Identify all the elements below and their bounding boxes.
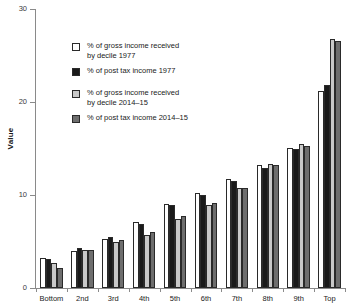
x-axis-tick: [160, 288, 161, 292]
bar: [330, 39, 336, 288]
bar: [212, 203, 218, 288]
bar: [200, 195, 206, 288]
x-axis-tick: [252, 288, 253, 292]
bar: [273, 165, 279, 288]
bar: [119, 240, 125, 288]
x-axis-tick: [98, 288, 99, 292]
bar: [231, 181, 237, 288]
bar: [257, 165, 263, 288]
y-axis-title: Value: [6, 117, 15, 161]
bar: [150, 232, 156, 288]
dark-gray-square-icon: [72, 115, 80, 123]
x-axis-tick: [314, 288, 315, 292]
x-axis-tick: [191, 288, 192, 292]
bar: [40, 258, 46, 288]
x-axis-tick-label: Bottom: [40, 294, 64, 303]
x-axis-tick-label: 6th: [201, 294, 211, 303]
white-square-icon: [72, 43, 80, 51]
x-axis-tick: [283, 288, 284, 292]
legend-item-label: % of gross income received by decile 197…: [87, 41, 179, 60]
bar: [287, 148, 293, 288]
black-square-icon: [72, 68, 80, 76]
bar: [77, 248, 83, 288]
y-axis-tick-label: 0: [23, 283, 27, 292]
bar: [318, 91, 324, 288]
legend-item[interactable]: % of gross income received by decile 201…: [72, 88, 272, 107]
bar: [102, 239, 108, 288]
x-axis-tick: [67, 288, 68, 292]
x-axis-tick: [36, 288, 37, 292]
legend-item[interactable]: % of post tax income 1977: [72, 66, 272, 82]
bar: [46, 259, 52, 288]
bar: [113, 242, 119, 289]
bar: [144, 235, 150, 288]
bar: [293, 149, 299, 289]
x-axis-tick: [345, 288, 346, 292]
y-axis-tick-label: 10: [19, 190, 27, 199]
bar: [71, 251, 77, 288]
bar: [51, 263, 57, 288]
bar-chart: Value 0102030 Bottom2nd3rd4th5th6th7th8t…: [0, 0, 348, 308]
bar: [335, 41, 341, 288]
bar: [169, 205, 175, 288]
legend-item-label: % of post tax income 1977: [87, 66, 175, 76]
y-axis-tick-label: 30: [19, 4, 27, 13]
x-axis-tick-label: 8th: [263, 294, 273, 303]
bar: [181, 216, 187, 288]
bar: [206, 205, 212, 288]
bar: [57, 268, 63, 288]
x-axis-tick-label: 9th: [293, 294, 303, 303]
bar: [108, 237, 114, 288]
x-axis-tick-label: 4th: [139, 294, 149, 303]
x-axis-tick-label: 2nd: [76, 294, 89, 303]
legend-item[interactable]: % of post tax income 2014–15: [72, 113, 272, 129]
x-axis-tick-label: Top: [324, 294, 336, 303]
x-axis-tick-label: 7th: [232, 294, 242, 303]
bar: [268, 164, 274, 288]
bar: [262, 168, 268, 288]
light-gray-square-icon: [72, 90, 80, 98]
x-axis-tick: [221, 288, 222, 292]
bar: [88, 250, 94, 288]
bar: [82, 250, 88, 288]
bar: [139, 224, 145, 288]
legend-item[interactable]: % of gross income received by decile 197…: [72, 41, 272, 60]
x-axis-tick: [129, 288, 130, 292]
bar: [175, 219, 181, 288]
chart-legend: % of gross income received by decile 197…: [72, 41, 272, 135]
bar: [237, 188, 243, 288]
y-axis-tick-label: 20: [19, 97, 27, 106]
bar: [226, 179, 232, 288]
legend-item-label: % of post tax income 2014–15: [87, 113, 188, 123]
legend-item-label: % of gross income received by decile 201…: [87, 88, 179, 107]
bar: [324, 85, 330, 288]
bar: [195, 193, 201, 288]
x-axis-tick-label: 5th: [170, 294, 180, 303]
bar: [242, 188, 248, 288]
bar: [304, 146, 310, 288]
x-axis-tick-label: 3rd: [108, 294, 119, 303]
bar: [164, 204, 170, 288]
bar: [299, 144, 305, 288]
bar: [133, 222, 139, 288]
